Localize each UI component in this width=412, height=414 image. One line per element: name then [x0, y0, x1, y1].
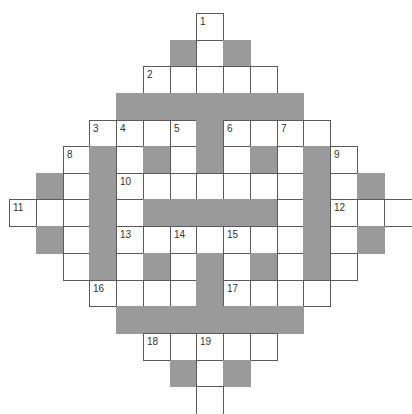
block-cell	[170, 93, 197, 121]
answer-cell[interactable]	[63, 199, 90, 227]
answer-cell[interactable]	[330, 173, 358, 200]
answer-cell[interactable]: 10	[116, 173, 144, 200]
answer-cell[interactable]	[170, 173, 197, 200]
answer-cell[interactable]: 17	[223, 280, 251, 307]
answer-cell[interactable]	[330, 226, 358, 254]
answer-cell[interactable]	[384, 199, 412, 227]
clue-number: 10	[120, 176, 131, 187]
block-cell	[303, 173, 331, 200]
clue-number: 12	[334, 202, 345, 213]
answer-cell[interactable]: 18	[143, 333, 171, 361]
block-cell	[223, 40, 251, 67]
block-cell	[36, 226, 64, 254]
answer-cell[interactable]	[277, 146, 304, 174]
block-cell	[357, 226, 385, 254]
answer-cell[interactable]: 13	[116, 226, 144, 254]
answer-cell[interactable]	[330, 253, 358, 281]
answer-cell[interactable]	[63, 253, 90, 281]
answer-cell[interactable]: 5	[170, 120, 197, 147]
answer-cell[interactable]	[250, 173, 278, 200]
block-cell	[89, 199, 117, 227]
answer-cell[interactable]	[277, 280, 304, 307]
block-cell	[143, 93, 171, 121]
answer-cell[interactable]	[116, 280, 144, 307]
block-cell	[196, 199, 224, 227]
clue-number: 13	[120, 229, 131, 240]
answer-cell[interactable]	[223, 333, 251, 361]
answer-cell[interactable]	[223, 146, 251, 174]
answer-cell[interactable]	[250, 120, 278, 147]
answer-cell[interactable]: 2	[143, 66, 171, 94]
answer-cell[interactable]	[250, 226, 278, 254]
answer-cell[interactable]: 8	[63, 146, 90, 174]
answer-cell[interactable]	[277, 226, 304, 254]
answer-cell[interactable]: 19	[196, 333, 224, 361]
block-cell	[89, 253, 117, 281]
answer-cell[interactable]	[277, 199, 304, 227]
answer-cell[interactable]	[170, 66, 197, 94]
answer-cell[interactable]	[196, 40, 224, 67]
block-cell	[143, 199, 171, 227]
block-cell	[303, 146, 331, 174]
answer-cell[interactable]	[196, 173, 224, 200]
answer-cell[interactable]	[116, 146, 144, 174]
answer-cell[interactable]	[223, 173, 251, 200]
answer-cell[interactable]	[277, 253, 304, 281]
answer-cell[interactable]	[223, 253, 251, 281]
answer-cell[interactable]: 4	[116, 120, 144, 147]
clue-number: 1	[200, 16, 206, 27]
answer-cell[interactable]	[63, 173, 90, 200]
block-cell	[143, 253, 171, 281]
answer-cell[interactable]	[357, 199, 385, 227]
answer-cell[interactable]	[196, 66, 224, 94]
answer-cell[interactable]	[250, 333, 278, 361]
clue-number: 16	[93, 283, 104, 294]
answer-cell[interactable]	[36, 199, 64, 227]
answer-cell[interactable]	[303, 120, 331, 147]
answer-cell[interactable]	[196, 360, 224, 387]
block-cell	[303, 199, 331, 227]
answer-cell[interactable]	[143, 173, 171, 200]
answer-cell[interactable]	[116, 199, 144, 227]
answer-cell[interactable]: 6	[223, 120, 251, 147]
clue-number: 11	[13, 202, 23, 213]
answer-cell[interactable]	[170, 280, 197, 307]
answer-cell[interactable]	[250, 66, 278, 94]
answer-cell[interactable]	[196, 226, 224, 254]
answer-cell[interactable]	[63, 226, 90, 254]
block-cell	[303, 253, 331, 281]
answer-cell[interactable]	[143, 280, 171, 307]
block-cell	[89, 226, 117, 254]
answer-cell[interactable]	[170, 253, 197, 281]
answer-cell[interactable]: 12	[330, 199, 358, 227]
clue-number: 18	[147, 336, 158, 347]
block-cell	[196, 280, 224, 307]
answer-cell[interactable]: 15	[223, 226, 251, 254]
answer-cell[interactable]	[303, 280, 331, 307]
answer-cell[interactable]	[143, 226, 171, 254]
clue-number: 4	[120, 123, 126, 134]
answer-cell[interactable]	[143, 120, 171, 147]
clue-number: 6	[227, 123, 233, 134]
answer-cell[interactable]	[170, 333, 197, 361]
answer-cell[interactable]: 7	[277, 120, 304, 147]
answer-cell[interactable]: 14	[170, 226, 197, 254]
block-cell	[196, 306, 224, 334]
answer-cell[interactable]	[170, 146, 197, 174]
block-cell	[303, 226, 331, 254]
answer-cell[interactable]: 11	[9, 199, 37, 227]
answer-cell[interactable]: 1	[196, 13, 224, 41]
answer-cell[interactable]	[116, 253, 144, 281]
block-cell	[223, 93, 251, 121]
answer-cell[interactable]	[277, 173, 304, 200]
block-cell	[277, 306, 304, 334]
answer-cell[interactable]: 16	[89, 280, 117, 307]
block-cell	[277, 93, 304, 121]
answer-cell[interactable]: 9	[330, 146, 358, 174]
answer-cell[interactable]	[223, 66, 251, 94]
block-cell	[170, 306, 197, 334]
answer-cell[interactable]: 3	[89, 120, 117, 147]
answer-cell[interactable]	[196, 386, 224, 414]
answer-cell[interactable]	[250, 280, 278, 307]
